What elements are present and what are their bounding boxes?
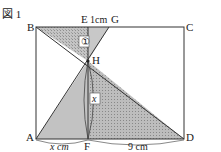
label-E: E — [81, 13, 88, 25]
label-region-x: x — [91, 93, 97, 104]
label-G: G — [111, 13, 119, 25]
label-B: B — [27, 21, 34, 33]
shaded-triangle-HFD — [88, 61, 184, 139]
label-region-1: ① — [81, 36, 90, 47]
label-AF-length: x cm — [49, 141, 69, 152]
label-H: H — [92, 54, 100, 66]
label-F: F — [84, 140, 90, 152]
label-D: D — [186, 131, 194, 143]
geometry-figure: 図 1 B C A D E G H F 1cm x cm 9 cm ① x — [0, 0, 221, 152]
label-EG-length: 1cm — [90, 14, 107, 25]
label-A: A — [26, 131, 34, 143]
figure-title: 図 1 — [2, 8, 21, 20]
label-C: C — [186, 21, 193, 33]
point-H-dot — [86, 59, 89, 62]
label-FD-length: 9 cm — [128, 141, 148, 152]
